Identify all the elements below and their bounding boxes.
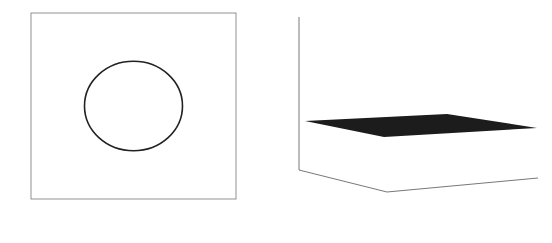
x-axis-line-3d <box>387 178 538 192</box>
separating-plane <box>305 114 537 137</box>
panel-a <box>31 13 236 199</box>
decision-boundary-circle <box>85 61 183 150</box>
panel-b <box>299 17 538 192</box>
plot-frame-a <box>31 13 236 199</box>
y-axis-line-3d <box>299 170 387 192</box>
figure <box>0 0 552 243</box>
